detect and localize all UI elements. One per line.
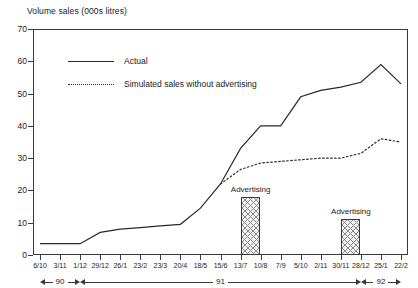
band-rule: [388, 282, 396, 283]
year-band-label: 90: [53, 278, 68, 286]
year-band-label: 92: [373, 278, 388, 286]
series-layer: [0, 0, 418, 288]
band-rule: [45, 282, 53, 283]
year-band: 90: [40, 277, 80, 287]
volume-sales-chart: Volume sales (000s litres) 0102030405060…: [0, 0, 418, 288]
band-rule: [68, 282, 76, 283]
year-band-label: 91: [213, 278, 228, 286]
year-band: 91: [80, 277, 361, 287]
series-line-actual: [40, 65, 401, 244]
band-rule: [366, 282, 374, 283]
band-rule: [228, 282, 356, 283]
year-band: 92: [361, 277, 401, 287]
band-rule: [85, 282, 213, 283]
series-line-simulated: [221, 139, 402, 184]
arrow-right-icon: [396, 279, 401, 285]
